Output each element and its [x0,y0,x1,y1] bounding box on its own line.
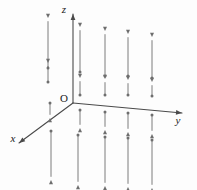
arrow-base-dot [104,111,107,114]
arrow-base-dot [151,139,154,142]
origin-label: O [60,92,68,104]
vector-field-figure: zyxO [0,0,197,190]
arrow-base-dot [50,130,53,133]
arrow-base-dot [151,114,154,117]
arrow-base-dot [127,112,130,115]
figure-background [0,0,197,190]
arrow-base-dot [49,102,52,105]
arrow-base-dot [79,94,82,97]
arrow-base-dot [79,71,82,74]
arrow-base-dot [47,81,50,84]
arrow-base-dot [104,136,107,139]
arrow-base-dot [127,94,130,97]
axis-label-y: y [175,114,181,126]
axis-label-z: z [61,3,67,15]
arrow-base-dot [104,94,107,97]
arrow-base-dot [127,137,130,140]
arrow-base-dot [77,134,80,137]
axis-label-x: x [10,132,16,144]
figure-canvas: zyxO [0,0,197,190]
arrow-base-dot [151,95,154,98]
arrow-base-dot [79,109,82,112]
